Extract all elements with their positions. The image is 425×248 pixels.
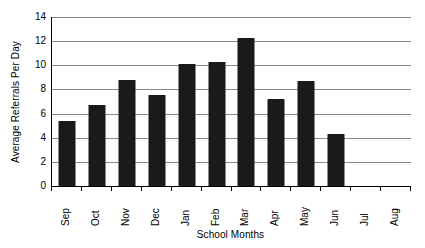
x-tick-label: Sep [60, 192, 72, 226]
x-tick-mark [81, 186, 82, 191]
bar-slot [261, 17, 291, 186]
bar-slot [381, 17, 411, 186]
x-tick-mark [350, 186, 351, 191]
x-tick-label: Nov [120, 192, 132, 226]
y-tick-label: 6 [22, 109, 46, 119]
x-tick-label: May [299, 192, 311, 226]
x-tick-mark [141, 186, 142, 191]
bar [208, 62, 225, 186]
x-tick-label: Apr [269, 192, 281, 226]
bar-slot [202, 17, 232, 186]
bar-chart: Average Referrals Per Day 02468101214 Se… [0, 0, 425, 248]
bar-slot [351, 17, 381, 186]
y-tick-label: 4 [22, 133, 46, 143]
bar-slot [232, 17, 262, 186]
bar [328, 134, 345, 186]
bar-slot [142, 17, 172, 186]
y-tick-label: 12 [22, 36, 46, 46]
x-tick-label: Aug [389, 192, 401, 226]
bar-slot [291, 17, 321, 186]
bar [238, 38, 255, 186]
x-tick-mark [201, 186, 202, 191]
y-tick-label: 14 [22, 12, 46, 22]
x-tick-mark [111, 186, 112, 191]
x-tick-mark [231, 186, 232, 191]
y-axis-title: Average Referrals Per Day [9, 12, 23, 192]
bar-slot [172, 17, 202, 186]
bar-slot [321, 17, 351, 186]
x-tick-mark [260, 186, 261, 191]
x-axis-title: School Months [51, 229, 410, 241]
bar [178, 64, 195, 186]
x-tick-mark [410, 186, 411, 191]
plot-area [51, 17, 411, 186]
y-tick-label: 0 [22, 181, 46, 191]
x-tick-label: Mar [239, 192, 251, 226]
bar [148, 95, 165, 186]
x-tick-mark [51, 186, 52, 191]
bar [58, 121, 75, 186]
x-tick-label: Jun [329, 192, 341, 226]
x-tick-label: Jul [359, 192, 371, 226]
x-tick-mark [380, 186, 381, 191]
bar [268, 99, 285, 186]
x-tick-mark [290, 186, 291, 191]
bar-slot [112, 17, 142, 186]
x-tick-label: Jan [180, 192, 192, 226]
bar [298, 81, 315, 186]
x-axis-tick-labels: SepOctNovDecJanFebMarAprMayJunJulAug [51, 192, 411, 226]
x-tick-label: Dec [150, 192, 162, 226]
bars-group [52, 17, 411, 186]
bar [88, 105, 105, 186]
x-tick-label: Feb [210, 192, 222, 226]
bar [118, 80, 135, 186]
x-tick-label: Oct [90, 192, 102, 226]
x-tick-mark [320, 186, 321, 191]
y-tick-label: 10 [22, 60, 46, 70]
y-axis-tick-labels: 02468101214 [22, 17, 46, 186]
y-tick-label: 2 [22, 157, 46, 167]
y-tick-label: 8 [22, 84, 46, 94]
bar-slot [52, 17, 82, 186]
x-tick-mark [171, 186, 172, 191]
bar-slot [82, 17, 112, 186]
